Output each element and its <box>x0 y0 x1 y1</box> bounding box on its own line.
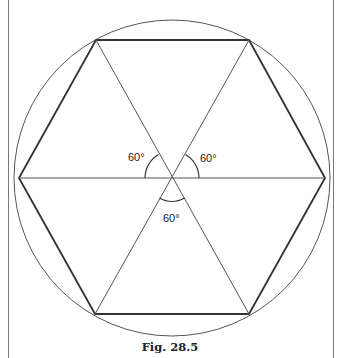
angle-label-bottom: 60° <box>163 212 180 224</box>
angle-label-right: 60° <box>200 152 217 164</box>
angle-arc-left <box>145 155 159 179</box>
angle-label-left: 60° <box>128 151 145 163</box>
angle-arc-right <box>186 155 200 179</box>
hexagon-diagram: 60° 60° 60° <box>0 0 340 358</box>
angle-arc-bottom <box>160 198 185 202</box>
figure-caption: Fig. 28.5 <box>0 340 340 354</box>
